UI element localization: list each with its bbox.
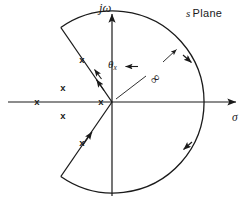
imaginary-axis-label: jω	[99, 2, 111, 15]
figure-title-rest: Plane	[193, 7, 223, 19]
pole-marker: x	[79, 138, 84, 148]
radius-leader-line-outer	[163, 50, 177, 63]
figure-title-italic: s	[186, 7, 193, 19]
contour-direction-arrow-arc-lower	[184, 142, 193, 150]
real-axis-label: σ	[232, 112, 238, 124]
figure-title: sPlane	[186, 8, 222, 19]
contour-upper-radial	[61, 28, 112, 103]
pole-marker: x	[60, 83, 65, 93]
pole-marker: x	[98, 97, 103, 107]
contour-direction-arrow-upper-radial	[97, 80, 105, 91]
pole-marker: x	[34, 97, 39, 107]
s-plane-figure: jω σ sPlane θx ∞ x x x x x x	[0, 0, 252, 203]
pole-marker: x	[60, 111, 65, 121]
pole-marker: x	[79, 55, 84, 65]
contour-direction-arrow-arc-upper	[183, 55, 192, 63]
radius-leader-line-inner	[116, 76, 146, 99]
angle-label: θx	[108, 59, 117, 72]
angle-label-subscript: x	[113, 63, 116, 72]
